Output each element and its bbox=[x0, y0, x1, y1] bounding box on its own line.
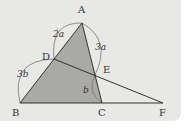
label-d: D bbox=[42, 51, 50, 62]
length-db: 3b bbox=[17, 69, 29, 79]
length-ad: 2a bbox=[52, 29, 64, 39]
label-b: B bbox=[12, 107, 19, 118]
triangle-diagram: A D E B C F 2a 3a 3b b bbox=[0, 0, 188, 128]
label-f: F bbox=[159, 107, 166, 118]
length-ae: 3a bbox=[95, 42, 106, 52]
label-e: E bbox=[103, 64, 110, 75]
label-a: A bbox=[77, 4, 86, 15]
length-ec: b bbox=[83, 85, 89, 95]
label-c: C bbox=[98, 107, 106, 118]
